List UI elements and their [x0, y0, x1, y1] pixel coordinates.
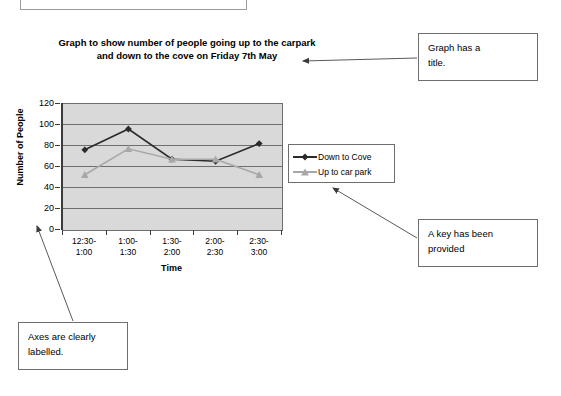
chart-title-line-1: Graph to show number of people going up … [42, 36, 332, 49]
chart-series-layer [0, 90, 300, 290]
data-point-0-4 [256, 140, 263, 147]
legend-label-down-to-cove: Down to Cove [318, 152, 371, 162]
triangle-marker-icon [292, 166, 318, 178]
annotation-axes-line-1: Axes are clearly [28, 329, 118, 344]
chart-title-line-2: and down to the cove on Friday 7th May [42, 49, 332, 62]
x-tick-label-4: 2:30- 3:00 [236, 236, 282, 258]
legend-entry-down-to-cove: Down to Cove [292, 149, 391, 164]
arrow-to-legend [333, 188, 417, 238]
x-tick-label-3: 2:00- 2:30 [192, 236, 238, 258]
x-tick-mark-2 [150, 230, 151, 235]
annotation-title-line-1: Graph has a [428, 40, 528, 55]
x-tick-mark-1 [106, 230, 107, 235]
data-point-1-0 [81, 171, 89, 178]
line-chart: Number of People 120 100 80 60 40 20 0 1… [0, 90, 300, 290]
x-tick-mark-4 [237, 230, 238, 235]
x-tick-mark-5 [281, 230, 282, 235]
annotation-title-line-2: title. [428, 55, 528, 70]
annotation-box-axes-labelled: Axes are clearly labelled. [18, 322, 128, 370]
annotation-axes-line-2: labelled. [28, 344, 118, 359]
x-tick-mark-0 [62, 230, 63, 235]
top-partial-annotation-box [20, 0, 247, 10]
annotation-key-line-1: A key has been [428, 226, 528, 241]
legend-entry-up-to-car-park: Up to car park [292, 164, 391, 179]
x-tick-label-2: 1:30- 2:00 [149, 236, 195, 258]
data-point-1-1 [125, 145, 133, 152]
annotation-box-graph-has-a-title: Graph has a title. [418, 33, 538, 81]
x-axis-title: Time [62, 263, 281, 273]
x-tick-label-0: 12:30- 1:00 [61, 236, 107, 258]
x-tick-label-1: 1:00- 1:30 [105, 236, 151, 258]
chart-legend: Down to Cove Up to car park [288, 144, 395, 183]
annotation-key-line-2: provided [428, 241, 528, 256]
legend-label-up-to-car-park: Up to car park [318, 167, 371, 177]
diamond-marker-icon [292, 151, 318, 163]
chart-title: Graph to show number of people going up … [42, 36, 332, 62]
annotation-box-key-provided: A key has been provided [418, 219, 538, 267]
data-point-0-0 [81, 146, 88, 153]
x-tick-mark-3 [193, 230, 194, 235]
